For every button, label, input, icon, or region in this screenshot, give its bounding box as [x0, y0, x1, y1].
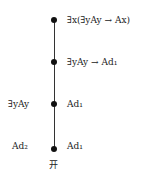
node-dot	[51, 17, 57, 23]
node-3-left: ∃yAy	[8, 99, 29, 109]
node-dot	[51, 59, 57, 65]
node-1-right: ∃x(∃yAy → Ax)	[67, 15, 130, 25]
node-dot	[51, 101, 57, 107]
node-3-right: Ad₁	[67, 99, 83, 109]
node-4-left: Ad₂	[12, 141, 28, 151]
node-dot	[51, 146, 57, 152]
node-2-right: ∃yAy → Ad₁	[67, 57, 117, 67]
closure-mark: 开	[49, 158, 58, 171]
node-4-right: Ad₁	[67, 141, 83, 151]
branch-line	[54, 20, 55, 150]
